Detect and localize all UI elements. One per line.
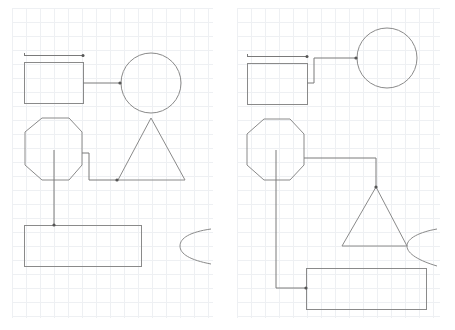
rect-to-circle-connector[interactable] bbox=[307, 56, 358, 83]
arrowhead-icon bbox=[118, 81, 121, 84]
right-diagram-panel bbox=[227, 0, 455, 330]
grid bbox=[237, 8, 440, 318]
octagon-to-rect2-connector[interactable] bbox=[276, 150, 308, 290]
arrowhead-icon bbox=[304, 286, 307, 289]
top-bar-marker[interactable] bbox=[247, 54, 309, 58]
triangle-shape[interactable] bbox=[342, 187, 407, 246]
octagon-to-triangle-connector[interactable] bbox=[82, 153, 119, 182]
right-diagram-canvas[interactable] bbox=[227, 0, 455, 330]
rectangle-1-shape[interactable] bbox=[248, 64, 308, 105]
left-diagram-panel bbox=[0, 0, 227, 330]
arrowhead-icon bbox=[52, 223, 55, 226]
rect-to-circle-connector[interactable] bbox=[83, 81, 122, 84]
circle-shape[interactable] bbox=[121, 53, 181, 113]
left-diagram-canvas[interactable] bbox=[0, 0, 227, 330]
octagon-to-rect2-connector[interactable] bbox=[52, 150, 55, 227]
grid bbox=[12, 8, 213, 318]
arrowhead-icon bbox=[374, 185, 377, 188]
arrowhead-icon bbox=[115, 178, 118, 181]
arrowhead-icon bbox=[354, 56, 357, 59]
